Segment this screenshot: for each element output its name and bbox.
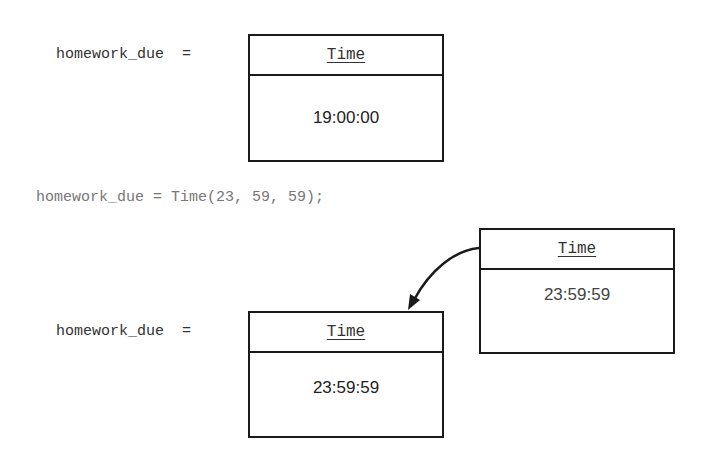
object-value: 23:59:59 [250,353,442,423]
class-header: Time [250,313,442,353]
class-name: Time [327,323,365,341]
variable-label-bottom: homework_due = [56,323,191,340]
time-object-bottom: Time 23:59:59 [248,311,444,438]
